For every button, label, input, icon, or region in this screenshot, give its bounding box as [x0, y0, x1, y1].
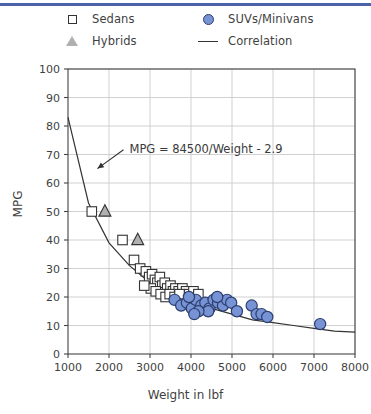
svg-text:30: 30 — [46, 263, 60, 276]
y-axis-title: MPG — [11, 174, 25, 234]
svg-text:0: 0 — [53, 348, 60, 361]
svg-text:100: 100 — [39, 63, 60, 76]
x-axis-tick-labels: 10002000300040005000600070008000 — [54, 361, 369, 374]
svg-text:20: 20 — [46, 291, 60, 304]
svg-text:4000: 4000 — [177, 361, 205, 374]
svg-text:1000: 1000 — [54, 361, 82, 374]
svg-text:50: 50 — [46, 206, 60, 219]
svg-text:10: 10 — [46, 320, 60, 333]
y-axis-tick-labels: 0102030405060708090100 — [39, 63, 60, 361]
svg-text:40: 40 — [46, 234, 60, 247]
svg-text:70: 70 — [46, 149, 60, 162]
annotation-text: MPG = 84500/Weight - 2.9 — [130, 142, 283, 156]
x-axis-title: Weight in lbf — [0, 388, 371, 402]
svg-text:7000: 7000 — [300, 361, 328, 374]
scatter-plot-figure: 0102030405060708090100 10002000300040005… — [0, 0, 371, 414]
svg-text:3000: 3000 — [136, 361, 164, 374]
svg-text:80: 80 — [46, 120, 60, 133]
svg-text:5000: 5000 — [218, 361, 246, 374]
svg-text:60: 60 — [46, 177, 60, 190]
equation-annotation: MPG = 84500/Weight - 2.9 — [97, 142, 282, 169]
svg-text:90: 90 — [46, 92, 60, 105]
svg-text:6000: 6000 — [259, 361, 287, 374]
svg-text:2000: 2000 — [95, 361, 123, 374]
sedans-data-points — [87, 207, 203, 302]
svg-text:8000: 8000 — [341, 361, 369, 374]
